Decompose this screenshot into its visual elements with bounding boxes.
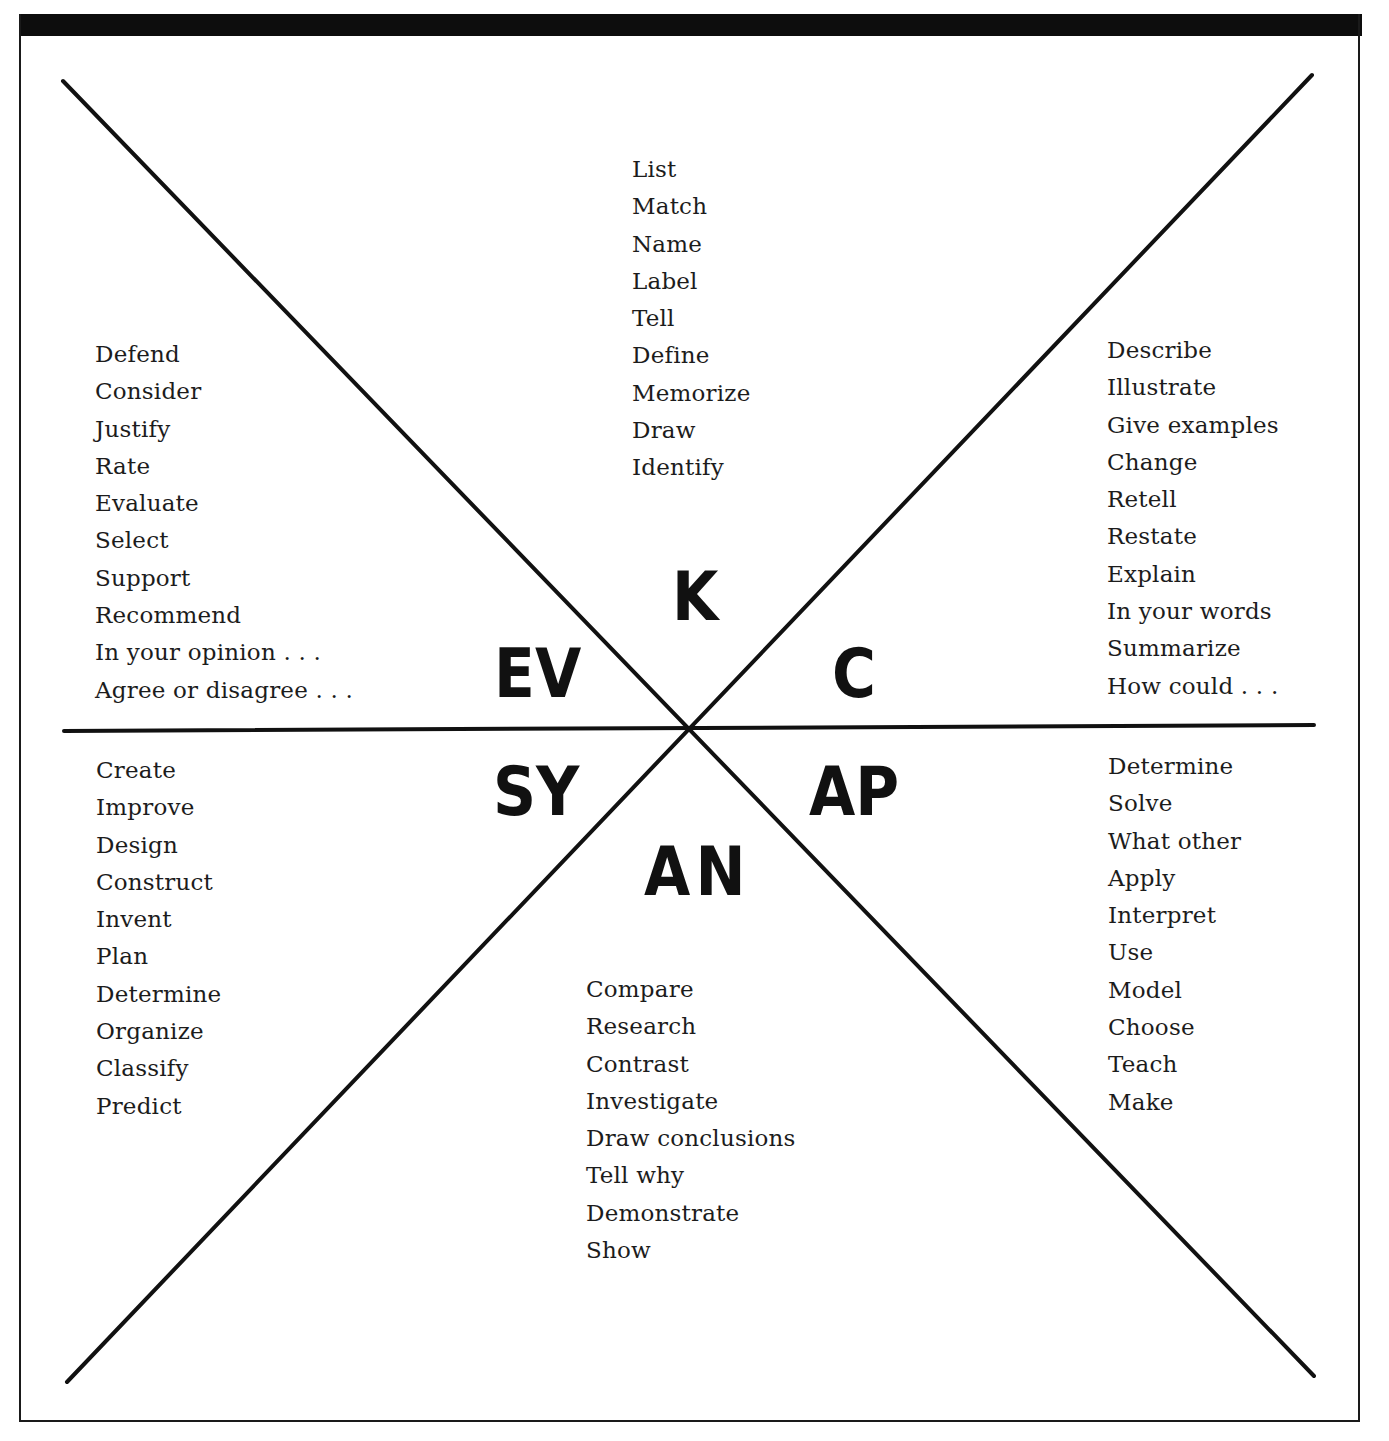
word-item: Select [95,522,353,559]
word-item: Plan [96,938,221,975]
label-synthesis: SY [493,758,579,826]
word-item: Invent [96,901,221,938]
word-item: Construct [96,864,221,901]
word-item: Support [95,560,353,597]
word-item: Give examples [1107,407,1279,444]
word-item: Draw conclusions [586,1120,796,1157]
word-item: Draw [632,412,751,449]
word-item: Design [96,827,221,864]
word-item: Demonstrate [586,1195,796,1232]
label-application: AP [809,758,899,826]
word-item: List [632,151,751,188]
word-item: Interpret [1108,897,1241,934]
word-item: Rate [95,448,353,485]
label-comprehension: C [832,640,876,708]
word-item: Name [632,226,751,263]
word-item: Recommend [95,597,353,634]
word-item: Teach [1108,1046,1241,1083]
word-item: Label [632,263,751,300]
word-item: Identify [632,449,751,486]
word-item: Match [632,188,751,225]
word-item: Solve [1108,785,1241,822]
word-item: Restate [1107,518,1279,555]
label-knowledge: K [672,563,718,631]
word-item: Create [96,752,221,789]
label-evaluation: EV [494,640,581,708]
word-item: Determine [1108,748,1241,785]
word-item: Choose [1108,1009,1241,1046]
word-item: Make [1108,1084,1241,1121]
word-list-synthesis: Create Improve Design Construct Invent P… [96,752,221,1125]
word-item: Describe [1107,332,1279,369]
word-item: How could . . . [1107,668,1279,705]
word-item: Tell why [586,1157,796,1194]
word-item: Model [1108,972,1241,1009]
word-item: Tell [632,300,751,337]
word-item: Classify [96,1050,221,1087]
word-item: Use [1108,934,1241,971]
word-item: What other [1108,823,1241,860]
word-item: Illustrate [1107,369,1279,406]
word-item: Compare [586,971,796,1008]
word-item: In your words [1107,593,1279,630]
word-item: Justify [95,411,353,448]
word-item: Summarize [1107,630,1279,667]
word-item: Research [586,1008,796,1045]
word-list-knowledge: List Match Name Label Tell Define Memori… [632,151,751,487]
word-item: Show [586,1232,796,1269]
word-item: Investigate [586,1083,796,1120]
word-item: Determine [96,976,221,1013]
word-list-analysis: Compare Research Contrast Investigate Dr… [586,971,796,1269]
word-item: In your opinion . . . [95,634,353,671]
word-item: Memorize [632,375,751,412]
word-item: Contrast [586,1046,796,1083]
word-list-evaluation: Defend Consider Justify Rate Evaluate Se… [95,336,353,709]
word-item: Apply [1108,860,1241,897]
word-item: Define [632,337,751,374]
word-list-application: Determine Solve What other Apply Interpr… [1108,748,1241,1121]
word-item: Defend [95,336,353,373]
word-item: Predict [96,1088,221,1125]
label-analysis: AN [644,838,751,906]
word-item: Consider [95,373,353,410]
word-item: Agree or disagree . . . [95,672,353,709]
word-item: Improve [96,789,221,826]
word-item: Retell [1107,481,1279,518]
word-item: Evaluate [95,485,353,522]
word-item: Organize [96,1013,221,1050]
word-item: Change [1107,444,1279,481]
word-list-comprehension: Describe Illustrate Give examples Change… [1107,332,1279,705]
word-item: Explain [1107,556,1279,593]
